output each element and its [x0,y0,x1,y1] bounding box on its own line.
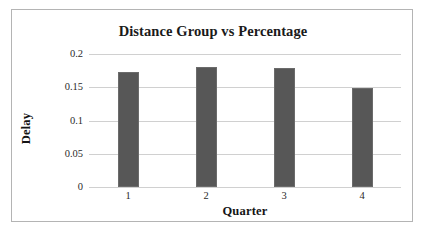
y-tick-label: 0 [39,182,83,193]
y-tick-label: 0.05 [39,149,83,160]
bar [118,72,139,187]
x-tick-label: 2 [186,190,226,201]
bar [274,68,295,187]
x-tick-label: 3 [264,190,304,201]
chart-title: Distance Group vs Percentage [12,23,414,40]
chart-figure: Distance Group vs Percentage Delay 00.05… [0,0,428,238]
bar [196,67,217,187]
chart-frame: Distance Group vs Percentage Delay 00.05… [11,9,413,222]
x-axis-title: Quarter [89,204,401,219]
y-axis-tick-labels: 00.050.10.150.2 [29,54,83,187]
gridline [89,187,401,188]
plot-area [89,54,401,187]
y-tick-label: 0.2 [39,49,83,60]
x-tick-label: 1 [108,190,148,201]
bar-series [89,54,401,187]
bar [352,88,373,187]
y-tick-label: 0.15 [39,82,83,93]
x-tick-label: 4 [342,190,382,201]
y-tick-label: 0.1 [39,115,83,126]
